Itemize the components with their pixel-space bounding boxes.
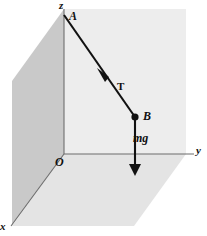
- point-b-marker: [131, 113, 138, 120]
- axis-label-y: y: [196, 145, 201, 156]
- point-label-a: A: [69, 10, 77, 22]
- point-label-origin: O: [55, 156, 64, 168]
- vector-label-weight: mg: [133, 132, 148, 144]
- vector-label-tension: T: [117, 81, 124, 92]
- axis-label-x: x: [0, 221, 6, 232]
- diagram-canvas: [0, 0, 207, 236]
- yz-plane-back: [64, 9, 186, 154]
- point-label-b: B: [143, 110, 151, 122]
- axis-label-z: z: [59, 0, 63, 11]
- physics-diagram-figure: z y x A O B T mg: [0, 0, 207, 236]
